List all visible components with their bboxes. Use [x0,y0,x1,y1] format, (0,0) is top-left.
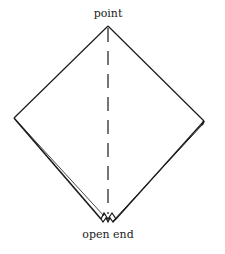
lower-right-edge [113,121,204,221]
diamond-diagram [0,0,225,254]
upper-right-edge [108,26,204,121]
upper-left-edge [14,26,108,118]
open-end-label: open end [82,228,133,241]
lower-left-edge [14,118,104,219]
open-end-fold [101,213,116,222]
